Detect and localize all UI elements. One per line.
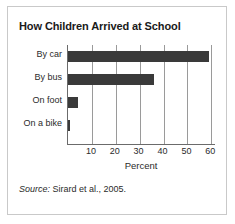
x-tick-label-10: 10: [86, 146, 96, 156]
category-label-by-car: By car: [36, 49, 62, 59]
x-tick-label-40: 40: [157, 146, 167, 156]
bar-by-car: [68, 51, 209, 62]
gridline-60: [211, 45, 212, 144]
source-citation: Sirard et al., 2005.: [50, 184, 126, 194]
category-label-by-bus: By bus: [34, 72, 62, 82]
chart-title: How Children Arrived at School: [19, 20, 181, 32]
plot-area: [67, 45, 215, 145]
category-axis-labels: By car By bus On foot On a bike: [8, 40, 65, 145]
x-axis-title: Percent: [67, 160, 215, 171]
x-tick-label-60: 60: [205, 146, 215, 156]
category-label-on-a-bike: On a bike: [23, 118, 62, 128]
x-tick-label-30: 30: [134, 146, 144, 156]
category-label-on-foot: On foot: [32, 95, 62, 105]
bar-on-foot: [68, 97, 78, 108]
source-label: Source:: [19, 184, 50, 194]
bar-by-bus: [68, 74, 154, 85]
bar-on-a-bike: [68, 120, 70, 131]
x-tick-label-50: 50: [181, 146, 191, 156]
x-tick-label-20: 20: [110, 146, 120, 156]
figure-card: How Children Arrived at School By car By…: [7, 6, 227, 215]
plot-wrapper: By car By bus On foot On a bike 10 20 30…: [8, 40, 228, 160]
x-axis-tick-labels: 10 20 30 40 50 60: [67, 146, 217, 160]
source-note: Source: Sirard et al., 2005.: [19, 184, 126, 194]
